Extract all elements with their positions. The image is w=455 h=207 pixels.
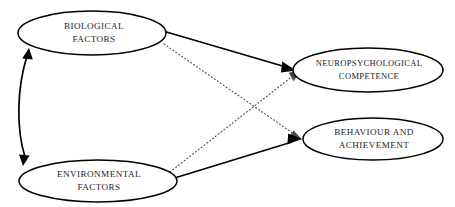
node-environmental-factors-label-line1: ENVIRONMENTAL — [57, 169, 141, 179]
node-environmental-factors-label-line2: FACTORS — [77, 182, 120, 192]
edge-environmental-to-neuropsychological-line — [170, 75, 294, 172]
node-neuropsychological-competence[interactable]: NEUROPSYCHOLOGICAL COMPETENCE — [293, 48, 443, 92]
edge-biological-environmental-curve — [19, 56, 27, 157]
node-behaviour-and-achievement-label-line1: BEHAVIOUR AND — [334, 127, 414, 137]
edge-biological-to-neuropsychological — [163, 31, 296, 72]
node-behaviour-and-achievement[interactable]: BEHAVIOUR AND ACHIEVEMENT — [303, 118, 443, 160]
node-biological-factors-ellipse[interactable] — [18, 11, 166, 55]
diagram-svg: BIOLOGICAL FACTORS ENVIRONMENTAL FACTORS… — [0, 0, 455, 207]
node-neuropsychological-competence-label-line2: COMPETENCE — [339, 71, 399, 81]
node-behaviour-and-achievement-ellipse[interactable] — [303, 118, 443, 160]
node-environmental-factors[interactable]: ENVIRONMENTAL FACTORS — [19, 160, 177, 202]
node-biological-factors[interactable]: BIOLOGICAL FACTORS — [18, 11, 166, 55]
edge-reciprocal-arrowhead-bottom — [19, 154, 30, 166]
edge-environmental-to-neuropsychological — [170, 69, 302, 172]
edge-environmental-to-behaviour-line — [168, 142, 292, 180]
node-biological-factors-label-line2: FACTORS — [72, 34, 115, 44]
edge-biological-to-behaviour-line — [164, 44, 294, 134]
edge-environmental-to-behaviour — [168, 133, 302, 180]
node-environmental-factors-ellipse[interactable] — [19, 160, 177, 202]
node-biological-factors-label-line1: BIOLOGICAL — [64, 21, 124, 31]
diagram-canvas-container: BIOLOGICAL FACTORS ENVIRONMENTAL FACTORS… — [0, 0, 455, 207]
edge-biological-to-behaviour — [164, 44, 302, 140]
edge-biological-environmental-reciprocal — [19, 48, 33, 166]
node-neuropsychological-competence-label-line1: NEUROPSYCHOLOGICAL — [316, 58, 423, 68]
edge-biological-to-neuropsychological-line — [163, 31, 286, 67]
node-behaviour-and-achievement-label-line2: ACHIEVEMENT — [339, 140, 410, 150]
edge-reciprocal-arrowhead-top — [22, 48, 33, 60]
